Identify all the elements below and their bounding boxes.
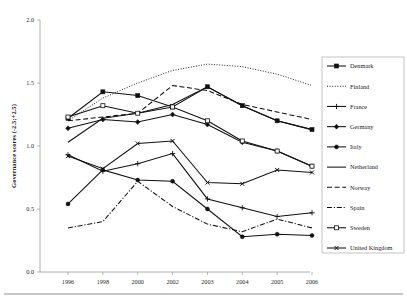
data-point-marker — [335, 226, 339, 230]
data-point-marker — [101, 104, 105, 108]
y-tick-label: 1.0 — [26, 142, 34, 149]
data-point-marker — [310, 164, 314, 168]
data-point-marker — [310, 233, 314, 237]
y-axis-title-text: Governance scores (-2.5;+2.5) — [10, 104, 18, 188]
legend-item-netherland[interactable]: Netherland — [324, 160, 402, 174]
chart-figure: 0.00.51.01.52.0 199619982000200220032004… — [0, 0, 407, 301]
legend-item-spain[interactable]: Spain — [324, 201, 402, 215]
legend-item-finland[interactable]: Finland — [324, 79, 402, 93]
legend-item-label: Netherland — [350, 163, 379, 170]
data-point-marker — [335, 145, 339, 149]
x-tick-label: 2002 — [166, 278, 178, 285]
data-point-marker — [275, 232, 279, 236]
data-point-marker — [136, 94, 140, 98]
chart-legend[interactable]: DenmarkFinlandFranceGermanyItalyNetherla… — [322, 57, 404, 255]
y-tick-label: 0.5 — [26, 205, 34, 212]
x-tick-label: 1996 — [62, 278, 74, 285]
x-tick-label: 2003 — [201, 278, 213, 285]
data-point-marker — [205, 119, 209, 123]
data-point-marker — [66, 115, 70, 119]
legend-item-france[interactable]: France — [324, 99, 402, 113]
legend-item-label: Denmark — [350, 62, 374, 69]
x-tick-label: 1998 — [97, 278, 109, 285]
legend-item-label: Italy — [350, 143, 362, 150]
legend-item-label: Finland — [350, 83, 370, 90]
legend-item-label: Norway — [350, 184, 371, 191]
y-tick-label: 1.5 — [26, 79, 34, 86]
y-tick-label: 2.0 — [26, 16, 34, 23]
x-tick-label: 2005 — [271, 278, 283, 285]
legend-item-united-kingdom[interactable]: United Kingdom — [324, 241, 402, 255]
legend-item-label: Sweden — [350, 224, 371, 231]
data-point-marker — [205, 207, 209, 211]
data-point-marker — [240, 235, 244, 239]
legend-item-label: United Kingdom — [350, 244, 393, 251]
legend-item-denmark[interactable]: Denmark — [324, 59, 402, 73]
data-point-marker — [136, 111, 140, 115]
governance-scores-line-chart: 0.00.51.01.52.0 199619982000200220032004… — [0, 0, 407, 301]
legend-item-italy[interactable]: Italy — [324, 140, 402, 154]
y-axis-title: Governance scores (-2.5;+2.5) — [10, 104, 18, 188]
legend-item-germany[interactable]: Germany — [324, 120, 402, 134]
data-point-marker — [171, 179, 175, 183]
legend-item-norway[interactable]: Norway — [324, 180, 402, 194]
data-point-marker — [101, 90, 105, 94]
data-point-marker — [66, 202, 70, 206]
x-tick-label: 2004 — [236, 278, 248, 285]
x-tick-label: 2000 — [132, 278, 144, 285]
data-point-marker — [335, 64, 339, 68]
legend-item-sweden[interactable]: Sweden — [324, 221, 402, 235]
legend-item-label: Spain — [350, 204, 365, 211]
legend-item-label: France — [350, 103, 367, 110]
data-point-marker — [240, 139, 244, 143]
legend-item-label: Germany — [350, 123, 374, 130]
data-point-marker — [275, 149, 279, 153]
y-tick-label: 0.0 — [26, 268, 34, 275]
x-tick-label: 2006 — [306, 278, 318, 285]
data-point-marker — [171, 105, 175, 109]
